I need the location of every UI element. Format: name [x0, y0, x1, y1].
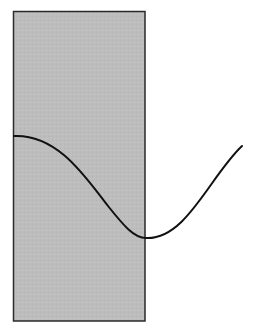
- diagram-canvas: [0, 0, 253, 330]
- shaded-rectangle: [14, 12, 146, 322]
